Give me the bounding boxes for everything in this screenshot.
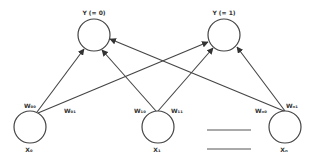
ellipsis-dashes	[207, 130, 251, 149]
node-circle	[78, 19, 110, 51]
weight-label-w01: W₀₁	[64, 107, 76, 114]
weight-label-w11: W₁₁	[171, 107, 183, 114]
network-diagram: Y (= 0) Y (= 1) X₀ X₁ Xₙ W₀₀ W₀₁ W₁₀ W₁₁…	[0, 0, 309, 158]
edge-x1-y1	[158, 48, 213, 111]
edges	[37, 39, 285, 113]
node-circle	[14, 111, 46, 143]
input-node-xn: Xₙ	[269, 111, 301, 153]
node-circle	[142, 111, 174, 143]
edge-x1-y0	[102, 50, 156, 111]
weight-label-wn0: Wₙ₀	[255, 107, 267, 114]
weight-label-w10: W₁₀	[134, 107, 146, 114]
input-node-x0: X₀	[14, 111, 46, 153]
edge-x0-y0	[37, 49, 84, 112]
output-node-y1: Y (= 1)	[208, 9, 240, 51]
weight-label-w00: W₀₀	[24, 102, 36, 109]
edge-x0-y1	[38, 42, 208, 113]
weight-label-wn1: Wₙ₁	[286, 102, 298, 109]
node-label: Y (= 0)	[81, 9, 105, 16]
output-node-y0: Y (= 0)	[78, 9, 110, 51]
node-label: X₀	[25, 146, 33, 153]
node-label: Y (= 1)	[211, 9, 235, 16]
node-label: Xₙ	[280, 146, 288, 153]
node-circle	[208, 19, 240, 51]
node-label: X₁	[153, 146, 161, 153]
input-node-x1: X₁	[142, 111, 174, 153]
node-circle	[269, 111, 301, 143]
